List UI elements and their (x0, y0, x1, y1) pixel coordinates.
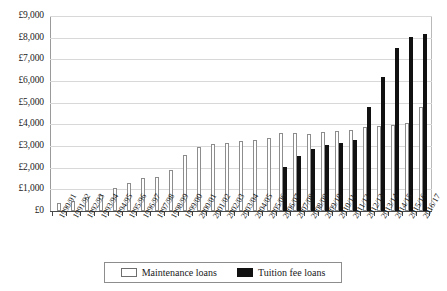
bar-tuition (409, 37, 413, 211)
bar-group (220, 16, 234, 211)
x-axis-label-cell: 2006/07 (276, 216, 290, 260)
bar-group (290, 16, 304, 211)
bar-group (374, 16, 388, 211)
x-axis-label-cell: 2011/12 (346, 216, 360, 260)
x-axis-label-cell: 2005/06 (262, 216, 276, 260)
bar-group (52, 16, 66, 211)
plot-area (50, 16, 432, 211)
x-axis-label-cell: 1994/95 (108, 216, 122, 260)
bar-group (206, 16, 220, 211)
bar-group (164, 16, 178, 211)
bar-group (318, 16, 332, 211)
y-axis-tick-label: £6,000 (0, 76, 44, 86)
x-axis-label-cell: 1999/00 (178, 216, 192, 260)
x-axis-label-cell: 2001/02 (206, 216, 220, 260)
bar-group (66, 16, 80, 211)
x-axis-label-cell: 2003/04 (234, 216, 248, 260)
x-axis-label-cell: 1992/93 (80, 216, 94, 260)
x-axis-label-cell: 2009/10 (318, 216, 332, 260)
chart-legend: Maintenance loansTuition fee loans (104, 262, 342, 283)
y-axis-tick-label: £7,000 (0, 55, 44, 65)
bar-group (178, 16, 192, 211)
bar-group (304, 16, 318, 211)
y-axis-tick-label: £2,000 (0, 163, 44, 173)
x-axis-label-cell: 2016/17 (416, 216, 430, 260)
bar-group (346, 16, 360, 211)
x-axis-label-cell: 1991/92 (66, 216, 80, 260)
bar-tuition (395, 48, 399, 211)
bar-group (150, 16, 164, 211)
bar-group (136, 16, 150, 211)
y-axis-tick-label: £5,000 (0, 98, 44, 108)
x-axis-label-cell: 2014/15 (388, 216, 402, 260)
x-axis-label-cell: 2008/09 (304, 216, 318, 260)
x-axis-label-cell: 2000/01 (192, 216, 206, 260)
bar-group (80, 16, 94, 211)
y-axis-tick-label: £9,000 (0, 11, 44, 21)
bar-group (416, 16, 430, 211)
x-axis-label-cell: 2013/14 (374, 216, 388, 260)
bar-chart: £9,000£8,000£7,000£6,000£5,000£4,000£3,0… (0, 0, 447, 291)
x-axis-label-cell: 2015/16 (402, 216, 416, 260)
bar-group (234, 16, 248, 211)
maintenance-swatch (121, 268, 137, 277)
bar-group (108, 16, 122, 211)
bar-tuition (423, 34, 427, 211)
x-axis-label-cell: 2012/13 (360, 216, 374, 260)
bar-group (276, 16, 290, 211)
legend-item[interactable]: Maintenance loans (121, 268, 217, 278)
bar-group (192, 16, 206, 211)
x-axis-label-cell: 2004/05 (248, 216, 262, 260)
x-axis-label-cell: 1998/99 (164, 216, 178, 260)
x-axis-labels: 1990/911991/921992/931993/941994/951995/… (50, 216, 432, 260)
x-axis-label-cell: 1990/91 (52, 216, 66, 260)
x-axis-label-cell: 2002/03 (220, 216, 234, 260)
x-axis-label-cell: 1996/97 (136, 216, 150, 260)
bar-group (122, 16, 136, 211)
x-axis-label-cell: 1995/96 (122, 216, 136, 260)
x-axis-label-cell: 2007/08 (290, 216, 304, 260)
x-axis-label-cell: 1997/98 (150, 216, 164, 260)
y-axis-tick-label: £4,000 (0, 120, 44, 130)
bar-tuition (381, 77, 385, 211)
bar-group (360, 16, 374, 211)
bar-group (94, 16, 108, 211)
y-axis-tick-label: £1,000 (0, 185, 44, 195)
x-axis-label-cell: 2010/11 (332, 216, 346, 260)
tuition-swatch (237, 268, 253, 277)
bar-group (262, 16, 276, 211)
bar-group (388, 16, 402, 211)
y-axis-tick-label: £8,000 (0, 33, 44, 43)
bar-groups (50, 16, 432, 211)
legend-item[interactable]: Tuition fee loans (237, 268, 325, 278)
bar-group (332, 16, 346, 211)
legend-label: Maintenance loans (142, 268, 217, 278)
legend-label: Tuition fee loans (258, 268, 325, 278)
y-axis-tick-label: £0 (0, 206, 44, 216)
bar-group (402, 16, 416, 211)
x-axis-label-cell: 1993/94 (94, 216, 108, 260)
y-axis-tick-label: £3,000 (0, 141, 44, 151)
bar-group (248, 16, 262, 211)
